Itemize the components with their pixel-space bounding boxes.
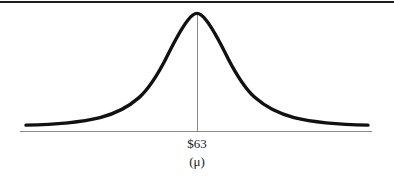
mean-value-label: $63 — [137, 136, 257, 151]
normal-distribution-figure: $63 (μ) — [0, 0, 394, 183]
mean-symbol-label: (μ) — [137, 154, 257, 169]
